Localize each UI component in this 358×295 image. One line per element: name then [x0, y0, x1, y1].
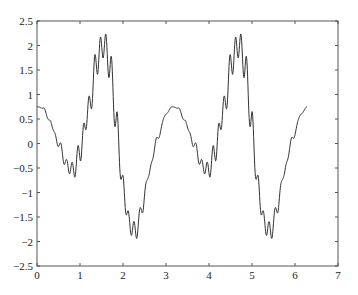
- x-tick-label: 2: [120, 269, 126, 281]
- x-tick-label: 5: [249, 269, 255, 281]
- y-axis-ticks: 2.521.510.50−0.5−1−1.5−2−2.5: [13, 15, 338, 272]
- y-tick-label: 2.5: [19, 15, 33, 27]
- data-line: [37, 34, 307, 238]
- x-axis-ticks: 01234567: [34, 21, 341, 281]
- y-tick-label: 0.5: [19, 113, 33, 125]
- y-tick-label: −2: [21, 236, 33, 248]
- x-tick-label: 0: [34, 269, 40, 281]
- x-tick-label: 7: [335, 269, 341, 281]
- y-tick-label: 1.5: [19, 64, 33, 76]
- y-tick-label: −1.5: [13, 211, 33, 223]
- y-tick-label: 2: [28, 40, 34, 52]
- y-tick-label: 1: [28, 89, 34, 101]
- x-tick-label: 3: [163, 269, 169, 281]
- y-tick-label: −0.5: [13, 162, 33, 174]
- x-tick-label: 1: [77, 269, 83, 281]
- y-tick-label: 0: [28, 138, 34, 150]
- x-tick-label: 4: [206, 269, 212, 281]
- line-chart: 2.521.510.50−0.5−1−1.5−2−2.5 01234567: [0, 0, 358, 295]
- y-tick-label: −1: [21, 187, 33, 199]
- x-tick-label: 6: [292, 269, 298, 281]
- y-tick-label: −2.5: [13, 260, 33, 272]
